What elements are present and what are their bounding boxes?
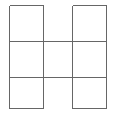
h-shape-grid-figure [0,0,115,114]
figure-container [0,0,115,114]
figure-background [0,0,115,114]
